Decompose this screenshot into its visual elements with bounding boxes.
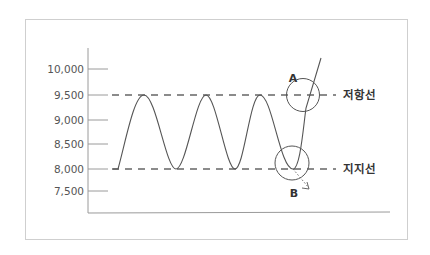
y-tick-label-9500: 9,500 (54, 89, 84, 101)
chart-canvas: 10,000 9,500 9,000 8,500 8,000 7,500 A B… (0, 0, 430, 255)
y-tick-label-10000: 10,000 (47, 63, 84, 75)
support-label: 지지선 (343, 162, 376, 176)
chart-frame (26, 20, 408, 240)
y-tick-label-8500: 8,500 (54, 138, 84, 150)
resistance-label: 저항선 (343, 88, 376, 102)
y-tick-label-7500: 7,500 (54, 185, 84, 197)
point-b-label: B (290, 187, 298, 200)
point-a-label: A (289, 72, 298, 85)
y-tick-label-8000: 8,000 (54, 163, 84, 175)
y-tick-label-9000: 9,000 (54, 114, 84, 126)
